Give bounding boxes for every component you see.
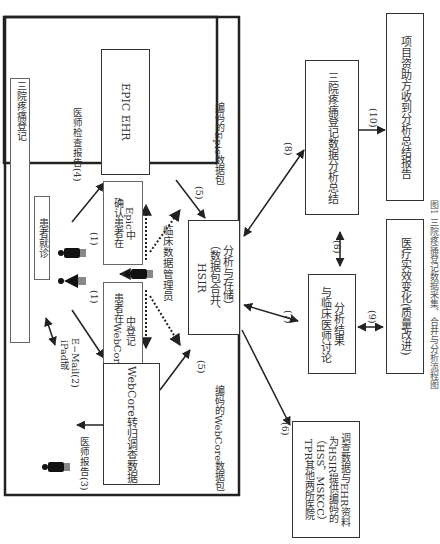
quality-improvement-label: 医疗实效变化(质量改进) xyxy=(399,237,412,356)
other-hospitals-line3: 为HSIR提供编码的 xyxy=(326,436,338,523)
funder-report-label: 项目资助方收到分析总结报告 xyxy=(399,36,412,179)
clinical-discussion-line1: 与临床医师讨论 xyxy=(319,286,332,363)
quality-improvement-box: 医疗实效变化(质量改进) xyxy=(386,219,424,374)
step-8b: (8) xyxy=(332,240,343,253)
pain-registry-strip: 三院疼痛登记 xyxy=(10,78,30,343)
webcore-survey-box: WebCore转归调查数据 xyxy=(103,363,160,485)
epic-ehr-label: EPIC EHR xyxy=(119,83,132,141)
webcore-register-line1: 患者在WebCore xyxy=(111,293,123,369)
patient-visit-label: 患者就诊 xyxy=(36,218,48,258)
patient-icon-female xyxy=(58,274,88,288)
webcore-register-line2: 中登记 xyxy=(123,316,135,346)
other-hospitals-line2: （HSS，MSKCC） xyxy=(314,434,326,526)
clinical-discussion-line2: 分析结果 xyxy=(332,302,345,346)
step-10: (10) xyxy=(368,108,379,128)
other-hospitals-line1: TPR其他两所医院 xyxy=(302,439,314,520)
encoded-epic-label: 编码的Epic数据包 xyxy=(211,102,226,185)
step-1b: (1) xyxy=(89,290,100,303)
funder-report-box: 项目资助方收到分析总结报告 xyxy=(386,13,424,201)
patient-visit-box: 患者就诊 xyxy=(34,196,50,280)
epic-ehr-box: EPIC EHR xyxy=(101,49,150,175)
webcore-survey-label: WebCore转归调查数据 xyxy=(125,366,138,483)
other-hospitals-line4: 调查数据与EHR资料 xyxy=(338,433,350,527)
ipad-label-1: iPad或 xyxy=(57,340,71,371)
hsir-line1: HSIR xyxy=(195,263,208,293)
step-6: (6) xyxy=(280,422,291,435)
hsir-box: HSIR （数据包合并、 分析与存储） xyxy=(188,220,240,335)
other-hospitals-box: TPR其他两所医院 （HSS，MSKCC） 为HSIR提供编码的 调查数据与EH… xyxy=(292,421,360,538)
patient-icon xyxy=(58,246,88,260)
confirm-epic-line2: Epic中 xyxy=(123,207,135,240)
encoded-webcore-label: 编码的WebCore数据包 xyxy=(211,385,226,491)
step-9: (9) xyxy=(367,310,378,323)
doctor-report-label: 医师报告(3) xyxy=(77,437,91,490)
step-5b: (5) xyxy=(196,360,207,373)
step-7: (7) xyxy=(283,310,294,323)
confirm-epic-line1: 确认患者在 xyxy=(111,198,123,248)
pain-registry-label: 三院疼痛登记 xyxy=(14,81,26,141)
clinical-data-manager-label: 临床数据管理员 xyxy=(160,225,175,302)
doctor-icon xyxy=(42,460,72,474)
step-8a: (8) xyxy=(283,142,294,155)
clinical-data-manager-icon xyxy=(125,267,155,281)
confirm-epic-box: 确认患者在 Epic中 xyxy=(103,181,143,265)
doctor-exam-report-label: 医师检查报告(4) xyxy=(70,108,84,181)
clinical-discussion-box: 与临床医师讨论 分析结果 xyxy=(308,274,356,374)
hsir-line3: 分析与存储） xyxy=(221,245,234,311)
step-5a: (5) xyxy=(194,186,205,199)
hsir-line2: （数据包合并、 xyxy=(208,239,221,316)
ipad-label-2: E−Mail(2) xyxy=(70,338,81,388)
registry-summary-label: 三院疼痛登记数据分析总结 xyxy=(326,72,339,204)
registry-summary-box: 三院疼痛登记数据分析总结 xyxy=(305,60,359,215)
figure-caption: 图1 三院疼痛登记数据采集、合并与分析流程图 xyxy=(428,200,440,389)
step-1a: (1) xyxy=(89,232,100,245)
